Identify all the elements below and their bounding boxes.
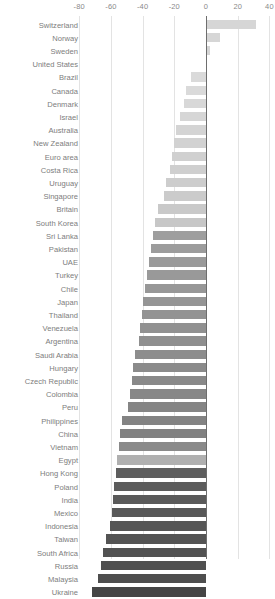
bar [184,99,206,108]
bar-row: Taiwan [0,533,274,546]
bar-row: Costa Rica [0,163,274,176]
zero-axis-line [206,16,207,559]
x-tick-label: -20 [169,2,180,11]
bar-row: Chile [0,282,274,295]
bar-row: Israel [0,110,274,123]
bar-row: Thailand [0,308,274,321]
category-label: Israel [59,112,78,121]
bar-row: Egypt [0,454,274,467]
bar [142,310,206,319]
bar-row: Russia [0,559,274,572]
category-label: New Zealand [33,139,78,148]
bar-row: South Africa [0,546,274,559]
bar-row: Peru [0,401,274,414]
bar [170,165,206,174]
category-label: South Korea [36,218,78,227]
bar-row: Switzerland [0,18,274,31]
x-tick-label: -80 [74,2,85,11]
bar-row: Pakistan [0,242,274,255]
category-label: South Africa [37,548,78,557]
bar [103,548,206,557]
bar [145,284,206,293]
bar [128,402,206,411]
category-label: Mexico [54,508,78,517]
bar [120,429,206,438]
category-label: UAE [62,258,78,267]
category-label: Indonesia [45,522,78,531]
category-label: Norway [52,33,78,42]
x-tick-label: 40 [265,2,274,11]
category-label: Brazil [59,73,78,82]
bar-row: Uruguay [0,176,274,189]
bar [180,112,206,121]
bar [186,86,206,95]
category-label: Thailand [49,310,78,319]
category-label: Britain [56,205,78,214]
bar [155,218,206,227]
category-label: Turkey [55,271,78,280]
bar [110,521,206,530]
x-tick-label: -40 [137,2,148,11]
category-label: Canada [51,86,78,95]
bar-row: Hungary [0,361,274,374]
bar [122,416,206,425]
category-label: China [58,429,78,438]
x-tick-label: 0 [204,2,208,11]
bar [153,231,206,240]
bar [114,482,206,491]
category-label: Sweden [51,46,78,55]
category-label: Colombia [46,390,78,399]
bar-row: Poland [0,480,274,493]
bar-row: Indonesia [0,520,274,533]
bar [140,323,206,332]
category-label: Peru [62,403,78,412]
bar-row: Czech Republic [0,374,274,387]
bar-row: United States [0,58,274,71]
plot-area: SwitzerlandNorwaySwedenUnited StatesBraz… [0,16,274,559]
bar-row: Malaysia [0,572,274,585]
bar [132,376,206,385]
bar-row: Britain [0,203,274,216]
bar-row: Denmark [0,97,274,110]
x-axis: -80-60-40-2002040 [0,0,274,16]
category-label: Saudi Arabia [35,350,78,359]
bar-row: India [0,493,274,506]
bar-row: China [0,427,274,440]
category-label: Hungary [49,363,78,372]
category-label: Ukraine [52,588,78,597]
bar [147,270,206,279]
category-label: Argentina [45,337,78,346]
bar-row: Philippines [0,414,274,427]
x-tick-label: -60 [105,2,116,11]
bar-row: Norway [0,31,274,44]
bar [130,389,206,398]
bar [158,204,206,213]
bar-row: Saudi Arabia [0,348,274,361]
category-label: Egypt [59,456,78,465]
category-label: Malaysia [48,574,78,583]
bar-row: Hong Kong [0,467,274,480]
bar-row: Singapore [0,190,274,203]
x-tick-label: 20 [233,2,242,11]
bar [206,33,220,42]
bar [149,257,206,266]
category-label: Taiwan [54,535,78,544]
bar [164,191,206,200]
bar [174,138,206,147]
bar [98,574,206,583]
bar-row: South Korea [0,216,274,229]
bar-row: Turkey [0,269,274,282]
category-label: Switzerland [39,20,78,29]
bar-row: Euro area [0,150,274,163]
category-label: Russia [55,561,78,570]
bar [143,297,206,306]
bar-row: Venezuela [0,322,274,335]
category-label: Japan [57,297,78,306]
category-label: Chile [61,284,78,293]
category-label: Poland [54,482,78,491]
category-label: Uruguay [49,178,78,187]
bar [106,534,206,543]
bar-row: New Zealand [0,137,274,150]
bar [176,125,206,134]
